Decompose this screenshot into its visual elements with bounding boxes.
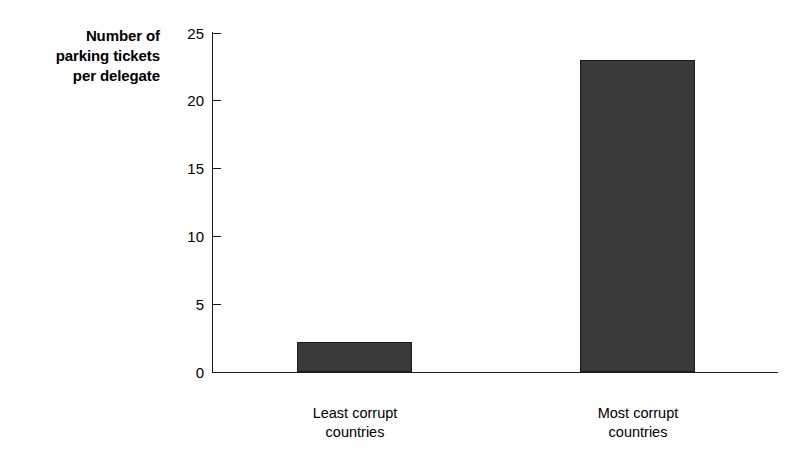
y-tick-label-0: 0 <box>158 365 204 380</box>
y-tick-label-25: 25 <box>158 26 204 41</box>
bar-least-corrupt-countries <box>297 342 412 372</box>
x-axis-label-least-corrupt-countries: Least corrupt countries <box>264 404 446 442</box>
bar-chart: Number of parking tickets per delegate 2… <box>0 0 801 464</box>
y-tick-label-5: 5 <box>158 297 204 312</box>
y-tick-mark-25 <box>213 33 221 34</box>
y-axis-tick-labels: 25 20 15 10 5 0 <box>154 0 204 464</box>
y-tick-label-10: 10 <box>158 229 204 244</box>
bar-most-corrupt-countries <box>580 60 695 372</box>
y-tick-mark-15 <box>213 168 221 169</box>
y-tick-mark-10 <box>213 236 221 237</box>
y-axis-title: Number of parking tickets per delegate <box>8 26 160 86</box>
y-tick-mark-20 <box>213 100 221 101</box>
x-axis-label-most-corrupt-countries: Most corrupt countries <box>547 404 729 442</box>
y-tick-mark-5 <box>213 304 221 305</box>
y-tick-label-15: 15 <box>158 161 204 176</box>
y-axis-line <box>212 32 213 373</box>
y-tick-label-20: 20 <box>158 93 204 108</box>
x-axis-line <box>212 372 778 373</box>
